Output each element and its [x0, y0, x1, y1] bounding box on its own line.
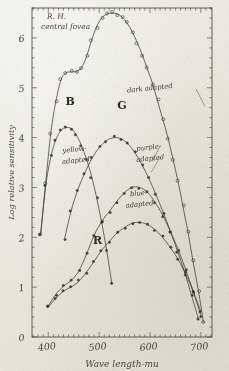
data-point [69, 285, 72, 288]
data-point [47, 305, 50, 308]
data-point [54, 297, 57, 300]
data-point [197, 318, 200, 321]
figure-caption-line1: R. H. [46, 12, 66, 21]
data-point [55, 294, 58, 297]
data-point [86, 272, 89, 275]
data-point [116, 231, 119, 234]
data-point [153, 202, 156, 205]
data-point [92, 260, 95, 263]
data-point [147, 176, 150, 179]
data-point [70, 128, 73, 131]
curve-letter-label: G [117, 99, 126, 112]
data-point [89, 176, 92, 179]
data-point [62, 284, 64, 287]
data-point [132, 222, 135, 225]
data-series [39, 10, 205, 323]
x-tick-label: 400 [36, 340, 56, 353]
data-point [138, 221, 141, 224]
curve-annotation: dark adapted [127, 82, 174, 95]
x-tick-label: 700 [190, 340, 209, 353]
data-point [86, 252, 89, 255]
data-point [105, 249, 108, 252]
data-point [90, 156, 93, 159]
data-point [123, 192, 126, 195]
x-tick-label: 600 [139, 340, 158, 353]
data-point [162, 235, 165, 238]
data-point [113, 135, 116, 138]
y-tick-label: 1 [18, 282, 26, 294]
data-point [176, 258, 179, 261]
y-tick-label: 4 [17, 132, 26, 144]
annotation-leader [196, 89, 205, 107]
data-point [110, 282, 113, 285]
data-point [44, 184, 47, 187]
data-point [191, 294, 194, 297]
y-axis-title: Log relative sensitivity [6, 125, 16, 221]
curve-annotation: yellow- [61, 144, 88, 155]
curve-annotation: adapted [62, 155, 91, 166]
data-point [104, 141, 107, 144]
y-tick-label: 0 [18, 332, 26, 344]
data-point [54, 139, 57, 142]
data-point [185, 269, 188, 272]
curve-annotation: adapted [125, 199, 154, 210]
data-point [116, 201, 119, 204]
chart-canvas: 4005006007000123456Wave length-muLog rel… [0, 0, 229, 371]
data-point [108, 241, 111, 244]
data-point [192, 290, 195, 293]
series-curve [48, 222, 200, 311]
data-point [154, 193, 157, 196]
data-point [59, 129, 62, 132]
data-point [170, 246, 173, 249]
data-point [38, 233, 41, 236]
curve-letter-label: R [93, 234, 103, 247]
x-tick-label: 500 [88, 340, 107, 353]
data-point [163, 212, 166, 215]
data-point [50, 154, 53, 157]
data-point [101, 220, 104, 223]
data-series [47, 221, 202, 313]
data-point [142, 164, 145, 167]
data-point [146, 223, 149, 226]
y-tick-label: 5 [18, 82, 26, 94]
data-point [130, 186, 133, 189]
data-point [74, 134, 77, 137]
data-point [177, 249, 180, 252]
data-point [120, 138, 123, 141]
data-series [46, 186, 202, 318]
curve-annotation: adapted [136, 153, 165, 164]
data-point [184, 274, 187, 277]
data-point [64, 238, 67, 241]
curve-annotation: blue- [130, 188, 149, 198]
y-tick-label: 6 [18, 33, 26, 45]
data-point [77, 279, 80, 282]
data-point [161, 215, 164, 218]
data-point [153, 229, 156, 232]
axis-ticks [32, 8, 212, 337]
data-point [70, 279, 73, 282]
plot-frame [32, 8, 212, 337]
spectral-sensitivity-figure: 4005006007000123456Wave length-muLog rel… [0, 0, 229, 371]
data-point [96, 197, 99, 200]
data-point [100, 250, 103, 253]
figure-caption-line2: central fovea [41, 22, 90, 31]
series-curve [65, 138, 199, 320]
series-curve [41, 13, 204, 322]
y-tick-label: 3 [18, 182, 26, 194]
data-point [62, 290, 65, 293]
data-point [78, 269, 81, 272]
data-point [83, 172, 86, 175]
data-point [76, 189, 79, 192]
curve-letter-label: B [65, 95, 74, 108]
data-point [64, 126, 67, 129]
data-point [200, 316, 203, 319]
data-point [109, 211, 112, 214]
data-point [99, 145, 102, 148]
data-point [69, 210, 72, 213]
data-point [124, 227, 127, 230]
data-point [199, 311, 202, 314]
data-point [126, 142, 129, 145]
data-point [169, 231, 172, 234]
x-axis-title: Wave length-mu [85, 359, 159, 369]
y-tick-label: 2 [17, 232, 26, 244]
